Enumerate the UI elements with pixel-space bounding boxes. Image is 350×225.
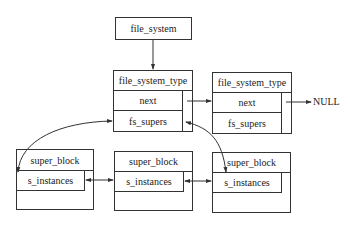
arrow-sb1-to-fs-supers <box>18 121 112 172</box>
arrow-fs-supers-to-sb3 <box>186 122 226 172</box>
arrows-layer <box>0 0 350 225</box>
